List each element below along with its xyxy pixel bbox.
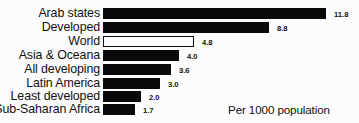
bar[interactable] — [103, 64, 171, 75]
category-label: Developed — [42, 21, 100, 35]
chart-row: World 4.8 — [0, 35, 359, 49]
category-label: Sub-Saharan Africa — [0, 103, 100, 117]
bar[interactable] — [103, 8, 326, 19]
bar-value-label: 4.8 — [202, 38, 213, 49]
bar-value-label: 4.0 — [187, 52, 198, 63]
bar-value-label: 11.8 — [334, 10, 348, 21]
bar[interactable] — [103, 78, 160, 89]
chart-row: Arab states 11.8 — [0, 7, 359, 21]
chart-row: Developed 8.8 — [0, 21, 359, 35]
bar[interactable] — [103, 36, 194, 47]
unit-annotation: Per 1000 population — [228, 103, 330, 116]
chart-row: All developing 3.6 — [0, 63, 359, 77]
category-label: Asia & Oceana — [19, 49, 100, 63]
category-label: Arab states — [38, 7, 100, 21]
bar[interactable] — [103, 50, 179, 61]
bar-value-label: 1.7 — [143, 106, 154, 117]
bar[interactable] — [103, 22, 269, 33]
bar-chart: Arab states 11.8 Developed 8.8 World 4.8… — [0, 0, 359, 123]
chart-row: Asia & Oceana 4.0 — [0, 49, 359, 63]
bar-value-label: 3.6 — [179, 66, 190, 77]
category-label: All developing — [24, 63, 100, 77]
bar[interactable] — [103, 91, 141, 102]
bar[interactable] — [103, 104, 135, 115]
category-label: World — [68, 35, 100, 49]
bar-value-label: 8.8 — [277, 24, 288, 35]
